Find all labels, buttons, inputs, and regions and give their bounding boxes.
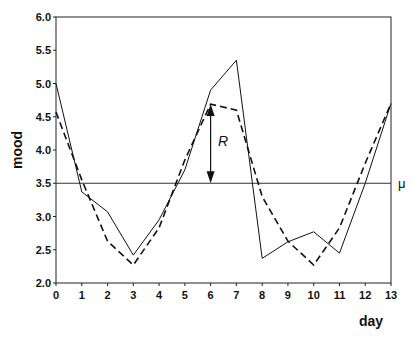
y-axis: 2.02.53.03.54.04.55.05.56.0 [36,11,56,289]
x-tick-label: 5 [182,289,188,301]
y-tick-label: 3.0 [36,211,51,223]
x-tick-label: 11 [334,289,346,301]
x-tick-label: 1 [79,289,85,301]
y-tick-label: 5.5 [36,44,51,56]
x-tick-label: 12 [359,289,371,301]
x-tick-label: 4 [156,289,163,301]
plot-frame [56,17,391,283]
x-tick-label: 6 [208,289,214,301]
y-tick-label: 2.5 [36,244,51,256]
amplitude-annotation [207,104,215,183]
x-tick-label: 7 [233,289,239,301]
y-tick-label: 5.0 [36,78,51,90]
arrow-down-icon [207,171,215,183]
y-tick-label: 3.5 [36,177,51,189]
chart: 2.02.53.03.54.04.55.05.56.0 012345678910… [0,0,413,340]
x-axis: 012345678910111213 [53,283,397,301]
y-tick-label: 4.5 [36,111,51,123]
x-tick-label: 3 [130,289,136,301]
x-tick-label: 9 [285,289,291,301]
y-tick-label: 4.0 [36,144,51,156]
series-observed [56,60,391,258]
y-tick-label: 2.0 [36,277,51,289]
x-tick-label: 8 [259,289,265,301]
y-axis-label: mood [9,131,25,169]
mu-label: μ [398,176,406,191]
x-tick-label: 0 [53,289,59,301]
r-label: R [218,133,228,149]
series-lines [56,60,391,265]
x-axis-label: day [359,313,383,329]
y-tick-label: 6.0 [36,11,51,23]
x-tick-label: 13 [385,289,397,301]
series-fitted [56,103,391,265]
x-tick-label: 10 [308,289,320,301]
plot-border [56,17,391,283]
x-tick-label: 2 [104,289,110,301]
